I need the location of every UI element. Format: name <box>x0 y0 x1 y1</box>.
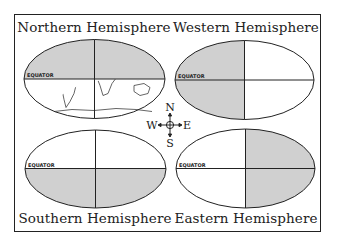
equator-label: EQUATOR <box>27 72 54 78</box>
compass-south-label: S <box>166 137 174 150</box>
compass-west-label: W <box>146 119 158 132</box>
western-hemisphere-map: EQUATOR <box>175 41 314 120</box>
arrow-east-icon <box>179 123 182 126</box>
eastern-hemisphere-map: EQUATOR <box>176 129 315 208</box>
hemisphere-maps: EQUATOR EQUATOR EQUATOR EQUATOR N <box>0 0 338 252</box>
northern-hemisphere-map: EQUATOR <box>24 40 165 119</box>
southern-hemisphere-map: EQUATOR <box>25 130 166 208</box>
compass-rose <box>158 113 182 137</box>
equator-label: EQUATOR <box>178 73 205 79</box>
compass-east-label: E <box>183 119 191 132</box>
arrow-west-icon <box>158 123 161 126</box>
equator-label: EQUATOR <box>28 162 55 168</box>
compass-north-label: N <box>165 101 175 114</box>
equator-label: EQUATOR <box>179 162 206 168</box>
